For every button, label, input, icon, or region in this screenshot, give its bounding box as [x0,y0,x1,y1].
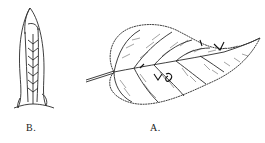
rolled-leaf-illustration [8,4,58,116]
figure-b-label: B. [26,122,36,133]
figure-b [8,4,58,116]
figure-a [84,18,264,110]
heart-leaf-illustration [84,18,264,110]
figure-a-label: A. [150,122,161,133]
